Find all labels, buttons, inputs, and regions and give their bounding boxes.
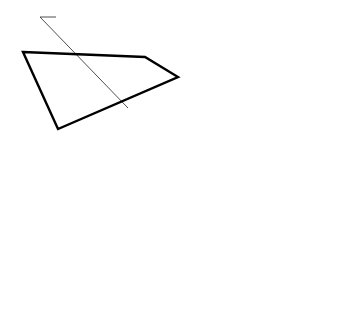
descriptive-geometry-drawing (0, 0, 353, 311)
top-rect (23, 52, 178, 129)
leader-top-axis (40, 17, 128, 108)
